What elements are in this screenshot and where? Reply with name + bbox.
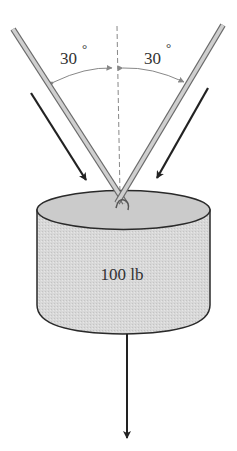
degree-symbol-right: ° bbox=[166, 40, 171, 55]
angle-label-left: 30 bbox=[60, 49, 77, 68]
degree-symbol-left: ° bbox=[82, 41, 87, 56]
cylinder-weight: 100 lb bbox=[37, 191, 210, 335]
vertical-reference-line bbox=[117, 26, 120, 195]
angle-dimension bbox=[54, 68, 184, 82]
weight-label: 100 lb bbox=[101, 265, 144, 284]
force-arrow-left bbox=[31, 93, 86, 180]
force-arrow-right bbox=[157, 88, 208, 178]
statics-diagram: 100 lb 30 ° 30 ° bbox=[0, 0, 237, 451]
angle-label-right: 30 bbox=[144, 49, 161, 68]
